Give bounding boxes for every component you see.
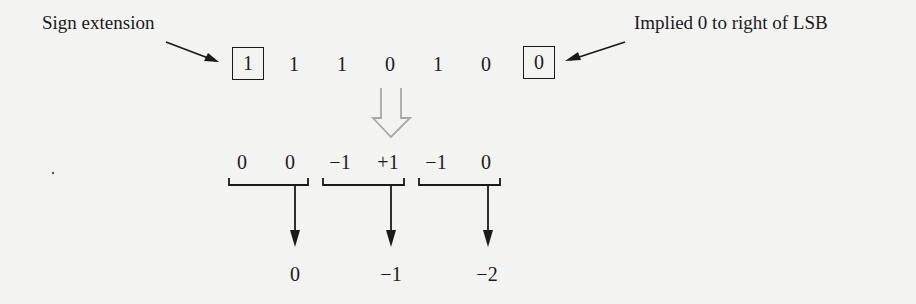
hollow-down-arrow-icon <box>373 88 410 137</box>
sign-extension-arrow-icon <box>166 42 219 62</box>
diagram-graphics <box>0 0 916 304</box>
scan-speck <box>52 172 54 174</box>
pair-3-bracket <box>419 178 500 247</box>
implied-zero-arrow-icon <box>565 42 625 61</box>
pair-2-bracket <box>323 178 404 247</box>
pair-1-bracket <box>229 178 308 247</box>
